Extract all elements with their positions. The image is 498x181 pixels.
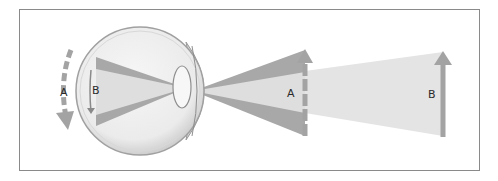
lens-icon <box>173 66 191 108</box>
far-object-light-cone <box>305 52 443 136</box>
label-near-object: A <box>287 87 295 100</box>
eye-diagram-svg: A B A B <box>0 0 498 181</box>
label-retina-image: B <box>92 84 100 97</box>
label-retina-movement: A <box>60 86 68 99</box>
label-far-object: B <box>428 88 436 101</box>
eye-optics-figure: A B A B <box>0 0 498 181</box>
